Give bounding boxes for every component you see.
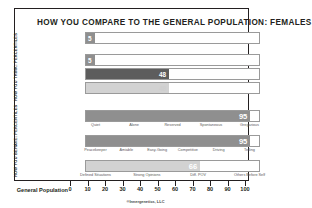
x-axis-label: General Population bbox=[0, 187, 68, 193]
axis-tick-label: 40 bbox=[137, 186, 143, 192]
bar-value: 66 bbox=[189, 161, 197, 172]
scale-label: Others Before Self bbox=[234, 173, 263, 177]
bar-row: Conceptual48 bbox=[15, 81, 248, 95]
bar-row: Analytical5 bbox=[15, 31, 248, 45]
bar-fill: 95 bbox=[86, 136, 250, 147]
bar-fill: 48 bbox=[86, 83, 169, 94]
bar-track: 48 bbox=[85, 82, 260, 95]
bar-value: 5 bbox=[88, 33, 92, 44]
bar-track: 66 bbox=[85, 160, 260, 173]
bar-scale-labels: PeacekeeperAmiableEasy-GoingCompetitiveD… bbox=[85, 148, 260, 156]
scale-label: Strong Opinions bbox=[133, 173, 160, 177]
bar-value: 5 bbox=[88, 55, 92, 66]
axis-tick-label: 90 bbox=[224, 186, 230, 192]
bar-track: 95 bbox=[85, 110, 260, 123]
bar-scale-labels: Defined SituationsStrong OpinionsDiff. P… bbox=[85, 173, 260, 181]
bar-fill: 48 bbox=[86, 69, 169, 80]
bar-row: Assertiveness95 bbox=[15, 134, 248, 148]
scale-label: Spontaneous bbox=[200, 123, 222, 127]
bar-track: 5 bbox=[85, 32, 260, 45]
axis-tick-label: 0 bbox=[68, 186, 71, 192]
x-axis: General Population 010203040506070809010… bbox=[14, 181, 249, 208]
bar-track: 48 bbox=[85, 68, 260, 81]
scale-label: Competitive bbox=[178, 148, 198, 152]
x-axis-tick-labels: 0102030405060708090100 bbox=[70, 186, 245, 196]
scale-label: Quiet bbox=[91, 123, 100, 127]
axis-tick-label: 30 bbox=[119, 186, 125, 192]
bar-value: 48 bbox=[159, 83, 166, 94]
bar-scale-labels: QuietAloneReservedSpontaneousGregarious bbox=[85, 123, 260, 131]
bar-row: Expressiveness95 bbox=[15, 109, 248, 123]
bar-value: 95 bbox=[239, 136, 247, 147]
scale-label: Defined Situations bbox=[80, 173, 111, 177]
axis-tick-label: 10 bbox=[84, 186, 90, 192]
bar-rows: Analytical5Structural5Social48Conceptual… bbox=[15, 9, 248, 180]
chart-card: HOW YOU COMPARE TO THE GENERAL POPULATIO… bbox=[14, 8, 249, 181]
bar-row: Social48 bbox=[15, 67, 248, 81]
scale-label: Amiable bbox=[119, 148, 133, 152]
axis-tick-label: 70 bbox=[189, 186, 195, 192]
bar-fill: 66 bbox=[86, 161, 200, 172]
bar-fill: 95 bbox=[86, 111, 250, 122]
bar-fill: 5 bbox=[86, 33, 95, 44]
scale-label: Easy-Going bbox=[147, 148, 167, 152]
bar-track: 95 bbox=[85, 135, 260, 148]
axis-tick-label: 100 bbox=[240, 186, 249, 192]
bar-value: 95 bbox=[239, 111, 247, 122]
axis-tick-label: 80 bbox=[207, 186, 213, 192]
scale-label: Reserved bbox=[164, 123, 180, 127]
axis-tick-label: 50 bbox=[154, 186, 160, 192]
axis-tick-label: 20 bbox=[102, 186, 108, 192]
scale-label: Diff. POV bbox=[190, 173, 206, 177]
bar-value: 48 bbox=[159, 69, 166, 80]
bar-row: Structural5 bbox=[15, 53, 248, 67]
scale-label: Peacekeeper bbox=[84, 148, 106, 152]
bar-row: Flexibility66 bbox=[15, 159, 248, 173]
bar-track: 5 bbox=[85, 54, 260, 67]
scale-label: Gregarious bbox=[240, 123, 259, 127]
scale-label: Alone bbox=[129, 123, 139, 127]
copyright-notice: ®Innergenetics, LLC bbox=[14, 199, 263, 204]
bar-fill: 5 bbox=[86, 55, 95, 66]
axis-tick-label: 60 bbox=[172, 186, 178, 192]
scale-label: Driving bbox=[213, 148, 225, 152]
scale-label: Telling bbox=[244, 148, 255, 152]
